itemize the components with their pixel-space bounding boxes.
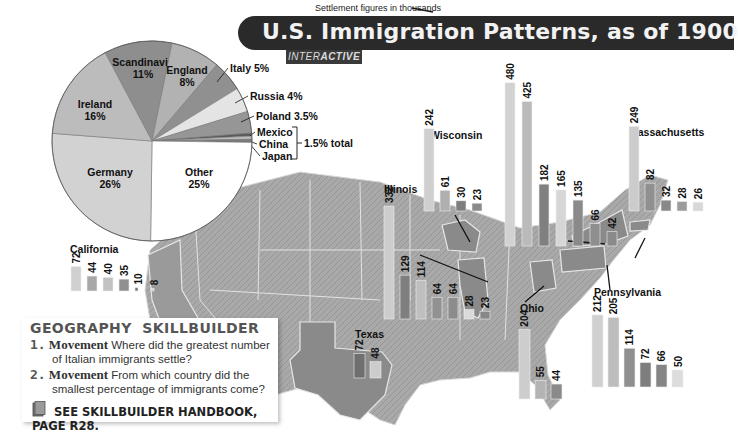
- bar: [592, 315, 603, 387]
- pie-label: England: [166, 64, 207, 76]
- bar: [354, 354, 365, 378]
- question-text: Where did the greatest number: [111, 339, 270, 351]
- bar-value-label: 129: [400, 255, 411, 272]
- question-text-cont: smallest percentage of immigrants come?: [30, 383, 280, 397]
- bar: [535, 380, 546, 399]
- bar-value-label: 212: [593, 295, 604, 312]
- bar: [424, 129, 434, 211]
- bar: [551, 384, 562, 399]
- pie-label: Other: [185, 166, 213, 178]
- bar: [607, 232, 617, 246]
- skillbuilder-box: GEOGRAPHY SKILLBUILDER 1. Movement Where…: [22, 318, 278, 422]
- bar: [472, 203, 482, 211]
- bar: [539, 184, 549, 246]
- bar-value-label: 50: [673, 355, 684, 367]
- interactive-tag-bold: ACTIVE: [320, 51, 360, 62]
- pie-value: 16%: [84, 110, 106, 122]
- bar: [119, 279, 129, 291]
- bar: [103, 277, 113, 291]
- bar: [456, 201, 466, 211]
- handbook-text: SEE SKILLBUILDER HANDBOOK, PAGE R28.: [32, 405, 257, 433]
- interactive-tag-prefix: INTER: [288, 51, 321, 62]
- bar-value-label: 48: [371, 347, 382, 359]
- bar-value-label: 35: [119, 265, 130, 277]
- bar: [440, 190, 450, 211]
- bar: [640, 363, 651, 387]
- bar-value-label: 28: [464, 295, 475, 307]
- question-number: 2.: [30, 367, 46, 382]
- bar-value-label: 135: [573, 180, 584, 197]
- bar: [661, 200, 671, 211]
- skillbuilder-heading: GEOGRAPHY SKILLBUILDER: [30, 320, 259, 336]
- state-pennsylvania: [560, 246, 606, 272]
- bar-value-label: 64: [448, 283, 459, 295]
- bar: [519, 330, 530, 399]
- bar: [656, 365, 667, 387]
- pie-bracket-label: 1.5% total: [304, 137, 353, 149]
- pie-value: 11%: [133, 68, 154, 80]
- state-label: Pennsylvania: [594, 286, 661, 298]
- bar: [693, 202, 703, 211]
- bar-group-pennsylvania: Pennsylvania212205114726650: [592, 286, 684, 387]
- pie-outside-label: China: [259, 138, 288, 150]
- bar-value-label: 72: [641, 348, 652, 360]
- bar: [629, 126, 639, 211]
- state-label: Massachusetts: [629, 126, 704, 138]
- bar-value-label: 72: [355, 339, 366, 351]
- bar: [400, 275, 410, 319]
- handbook-link[interactable]: SEE SKILLBUILDER HANDBOOK, PAGE R28.: [32, 405, 278, 433]
- pie-value: 26%: [99, 178, 121, 190]
- bar-value-label: 114: [625, 329, 636, 346]
- bar-value-label: 55: [536, 366, 547, 378]
- bar: [505, 83, 515, 246]
- bar: [480, 311, 490, 319]
- bar: [590, 224, 600, 246]
- pie-label: Germany: [87, 166, 133, 178]
- pie-value: 25%: [188, 178, 210, 190]
- bar-value-label: 165: [556, 170, 567, 187]
- bar-value-label: 32: [661, 186, 672, 198]
- bar: [556, 190, 566, 246]
- bar: [608, 317, 619, 387]
- state-label: Wisconsin: [430, 129, 482, 141]
- bar-value-label: 30: [456, 186, 467, 198]
- pie-outside-label: Mexico: [257, 126, 293, 138]
- bar-value-label: 332: [384, 186, 395, 203]
- unit-note: Settlement figures in thousands: [315, 3, 442, 13]
- bar-value-label: 10: [133, 273, 144, 285]
- bar-value-label: 26: [693, 188, 704, 200]
- pie-bracket: [292, 127, 302, 159]
- pie-value: 8%: [179, 76, 195, 88]
- bar-value-label: 242: [424, 109, 435, 126]
- bar: [71, 267, 81, 291]
- bar: [672, 370, 683, 387]
- bar-value-label: 249: [629, 106, 640, 123]
- bar-value-label: 64: [432, 283, 443, 295]
- interactive-tag[interactable]: INTERACTIVE: [286, 50, 362, 64]
- bar: [432, 297, 442, 319]
- bar: [135, 288, 138, 291]
- bar: [573, 200, 583, 246]
- bar-value-label: 204: [520, 310, 531, 327]
- bar: [448, 297, 458, 319]
- state-label: Texas: [355, 328, 384, 340]
- bar-value-label: 182: [539, 164, 550, 181]
- pie-outside-label: Japan: [262, 150, 292, 162]
- book-icon: [32, 401, 46, 417]
- bar: [370, 362, 381, 378]
- bar: [677, 201, 687, 211]
- question-number: 1.: [30, 337, 46, 352]
- bar: [416, 280, 426, 319]
- page-title: U.S. Immigration Patterns, as of 1900: [262, 19, 738, 44]
- bar-value-label: 40: [103, 263, 114, 275]
- pie-outside-label: Poland 3.5%: [256, 110, 319, 122]
- pie-outside-label: Russia 4%: [250, 90, 303, 102]
- bar-value-label: 42: [607, 217, 618, 229]
- bar: [384, 206, 394, 319]
- bar: [151, 288, 154, 291]
- bar: [464, 309, 474, 319]
- bar-value-label: 28: [677, 187, 688, 199]
- bar: [87, 276, 97, 291]
- bar-value-label: 72: [71, 252, 82, 264]
- bar-value-label: 23: [472, 189, 483, 201]
